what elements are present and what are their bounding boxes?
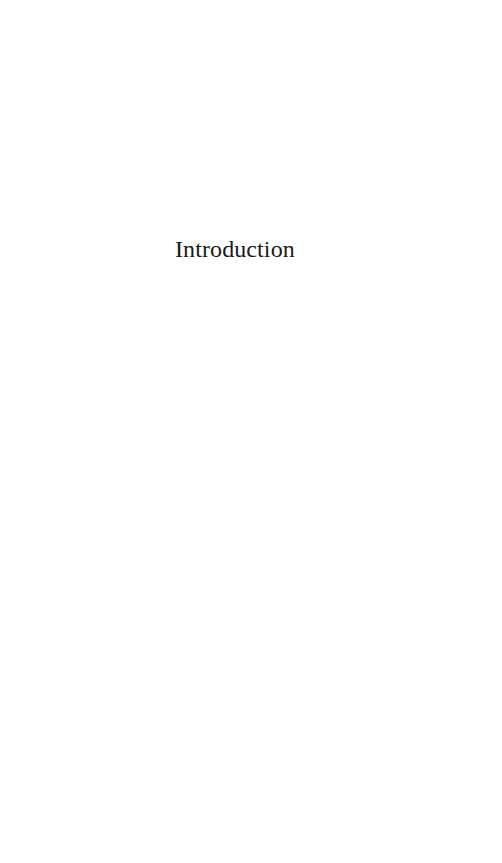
chapter-title: Introduction bbox=[175, 234, 295, 264]
book-page: Introduction bbox=[0, 0, 502, 863]
